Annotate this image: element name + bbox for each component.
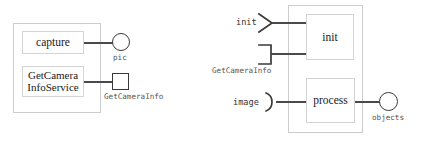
diagram-canvas: capture pic GetCamera InfoService GetCam… xyxy=(0,0,425,147)
component-capture[interactable]: capture xyxy=(22,31,84,54)
port-pic-label: pic xyxy=(113,53,127,62)
component-getcamerainfoservice-label: GetCamera InfoService xyxy=(27,70,78,94)
wire-capture-to-pic xyxy=(84,42,113,44)
port-image-label: image xyxy=(233,97,259,107)
component-capture-label: capture xyxy=(36,36,70,48)
wire-getcamerainfo-to-component xyxy=(271,53,307,55)
port-objects-label: objects xyxy=(372,113,404,122)
port-pic-circle-icon[interactable] xyxy=(112,33,130,51)
wire-init-to-component xyxy=(272,22,307,24)
wire-service-to-getcamerainfo xyxy=(84,81,113,83)
wire-image-to-process xyxy=(276,101,307,103)
port-objects-circle-icon[interactable] xyxy=(379,92,398,111)
port-getcamerainfo-label: GetCameraInfo xyxy=(104,92,163,101)
component-init-label: init xyxy=(322,31,337,43)
component-process-label: process xyxy=(313,94,348,106)
port-getcamerainfo-in-label: GetCameraInfo xyxy=(212,66,271,75)
component-getcamerainfoservice[interactable]: GetCamera InfoService xyxy=(22,66,84,97)
component-init[interactable]: init xyxy=(306,14,354,60)
wire-process-to-objects xyxy=(355,101,380,103)
component-process[interactable]: process xyxy=(306,78,355,123)
port-getcamerainfo-square-icon[interactable] xyxy=(112,73,129,90)
port-init-label: init xyxy=(236,17,257,27)
